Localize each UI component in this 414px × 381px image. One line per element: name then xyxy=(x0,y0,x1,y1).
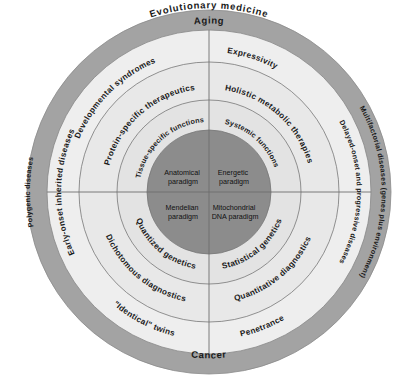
core-label-bottom-left: Mendelian paradigm xyxy=(165,203,200,221)
core-label-bottom-right: Mitochondrial DNA paradigm xyxy=(212,203,259,221)
core-label-top-right: Energetic paradigm xyxy=(218,168,250,186)
outer-label-top: Aging xyxy=(193,15,224,27)
core-label-top-left: Anatomical paradigm xyxy=(164,168,202,186)
outer-label-bottom: Cancer xyxy=(191,348,227,360)
paradigm-ring-diagram: Evolutionary medicine Classical medicine… xyxy=(0,0,414,381)
